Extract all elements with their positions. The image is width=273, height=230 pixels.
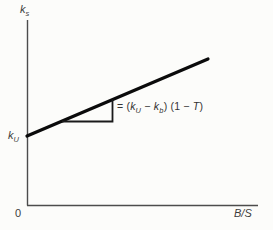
slope-annotation-prefix: = ( xyxy=(117,100,130,112)
cost-of-equity-vs-leverage-figure: ks kU 0 B/S = (kU − kb) (1 − T) xyxy=(0,0,273,230)
cost-of-equity-line xyxy=(27,59,208,136)
slope-annotation: = (kU − kb) (1 − T) xyxy=(117,101,203,113)
origin-label: 0 xyxy=(15,207,21,219)
slope-annotation-suffix: ) xyxy=(199,100,203,112)
y-intercept-label: kU xyxy=(8,129,19,141)
slope-annotation-one-minus: 1 − xyxy=(174,100,193,112)
slope-annotation-mid: ) ( xyxy=(164,100,175,112)
slope-annotation-minus: − xyxy=(141,100,154,112)
y-intercept-label-sub: U xyxy=(14,135,19,144)
x-axis-label: B/S xyxy=(234,207,252,219)
y-axis-label-sub: s xyxy=(26,9,30,18)
y-axis-label: ks xyxy=(20,3,29,15)
